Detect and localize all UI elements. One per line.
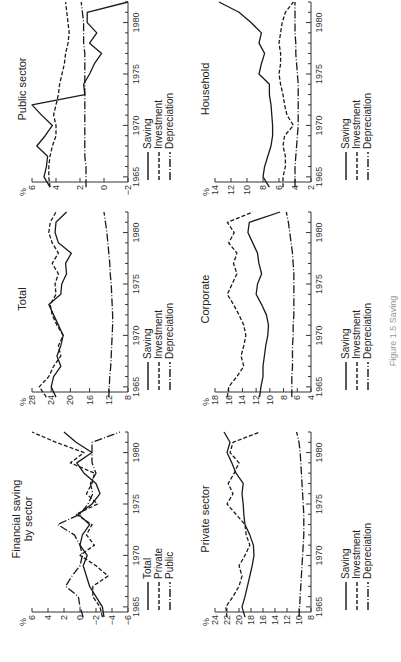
legend-label: Depreciation [362, 93, 373, 149]
dashed-line-icon [354, 152, 360, 180]
legend-label: Investment [153, 100, 164, 149]
svg-text:1965: 1965 [314, 597, 324, 617]
svg-text:14: 14 [237, 395, 247, 405]
svg-text:24: 24 [46, 395, 56, 405]
svg-text:16: 16 [258, 615, 268, 625]
figure-caption: Figure 1.5 Saving [388, 0, 398, 662]
legend-label: Saving [142, 328, 153, 359]
svg-text:12: 12 [282, 615, 292, 625]
legend-financial: Total Private Public [142, 548, 175, 610]
dashdot-line-icon [167, 362, 173, 390]
dashed-line-icon [354, 362, 360, 390]
svg-text:6: 6 [27, 615, 37, 620]
svg-text:12: 12 [226, 185, 236, 195]
svg-text:1965: 1965 [314, 377, 324, 397]
legend-label: Saving [340, 548, 351, 579]
svg-text:0: 0 [99, 185, 109, 190]
svg-text:1980: 1980 [314, 13, 324, 33]
legend-label: Investment [351, 100, 362, 149]
svg-text:1975: 1975 [314, 64, 324, 84]
legend-label: Depreciation [164, 93, 175, 149]
svg-text:8: 8 [258, 185, 268, 190]
dashdot-line-icon [167, 582, 173, 610]
legend-label: Depreciation [362, 523, 373, 579]
legend-corporate: Saving Investment Depreciation [340, 303, 373, 390]
svg-text:16: 16 [224, 395, 234, 405]
dashdot-line-icon [167, 152, 173, 180]
dashed-line-icon [156, 582, 162, 610]
solid-line-icon [145, 152, 151, 180]
svg-text:1980: 1980 [131, 223, 141, 243]
svg-text:1980: 1980 [131, 443, 141, 463]
chart-financial-saving: Financial saving by sector %−6−4−2024619… [10, 424, 195, 644]
svg-text:1980: 1980 [314, 223, 324, 243]
dashed-line-icon [156, 362, 162, 390]
svg-text:10: 10 [242, 185, 252, 195]
legend-label: Public [164, 552, 175, 579]
svg-text:18: 18 [210, 395, 220, 405]
svg-text:10: 10 [265, 395, 275, 405]
dashdot-line-icon [365, 152, 371, 180]
legend-label: Saving [340, 328, 351, 359]
solid-line-icon [343, 152, 349, 180]
svg-text:1975: 1975 [314, 274, 324, 294]
svg-text:0: 0 [75, 615, 85, 620]
svg-text:1970: 1970 [314, 325, 324, 345]
legend-label: Depreciation [164, 303, 175, 359]
svg-text:6: 6 [27, 185, 37, 190]
svg-text:14: 14 [270, 615, 280, 625]
legend-private: Saving Investment Depreciation [340, 523, 373, 610]
solid-line-icon [343, 362, 349, 390]
svg-text:1965: 1965 [314, 167, 324, 187]
legend-label: Investment [351, 310, 362, 359]
svg-text:1975: 1975 [314, 494, 324, 514]
svg-text:1975: 1975 [131, 274, 141, 294]
svg-text:4: 4 [51, 185, 61, 190]
svg-text:4: 4 [43, 615, 53, 620]
solid-line-icon [343, 582, 349, 610]
svg-text:−2: −2 [91, 615, 101, 625]
svg-text:1980: 1980 [314, 443, 324, 463]
dashdot-line-icon [365, 582, 371, 610]
rotated-page: Financial saving by sector %−6−4−2024619… [0, 0, 401, 662]
legend-household: Saving Investment Depreciation [340, 93, 373, 180]
svg-text:28: 28 [27, 395, 37, 405]
svg-text:20: 20 [65, 395, 75, 405]
svg-text:24: 24 [210, 615, 220, 625]
chart-plot: %−6−4−202461965197019751980 [10, 424, 195, 644]
svg-text:1975: 1975 [131, 64, 141, 84]
legend-label: Investment [153, 310, 164, 359]
svg-text:1970: 1970 [131, 325, 141, 345]
svg-text:1970: 1970 [131, 545, 141, 565]
svg-text:18: 18 [246, 615, 256, 625]
svg-text:2: 2 [59, 615, 69, 620]
dashed-line-icon [156, 152, 162, 180]
dashed-line-icon [354, 582, 360, 610]
svg-text:20: 20 [234, 615, 244, 625]
svg-text:1980: 1980 [131, 13, 141, 33]
svg-text:1970: 1970 [314, 115, 324, 135]
svg-text:1970: 1970 [131, 115, 141, 135]
svg-text:6: 6 [292, 395, 302, 400]
solid-line-icon [145, 582, 151, 610]
legend-label: Investment [351, 530, 362, 579]
svg-text:1970: 1970 [314, 545, 324, 565]
legend-total: Saving Investment Depreciation [142, 303, 175, 390]
dashdot-line-icon [365, 362, 371, 390]
svg-text:16: 16 [85, 395, 95, 405]
legend-label: Depreciation [362, 303, 373, 359]
svg-text:8: 8 [279, 395, 289, 400]
solid-line-icon [145, 362, 151, 390]
legend-public: Saving Investment Depreciation [142, 93, 175, 180]
svg-text:2: 2 [75, 185, 85, 190]
svg-text:1965: 1965 [131, 377, 141, 397]
svg-text:1965: 1965 [131, 597, 141, 617]
svg-text:1965: 1965 [131, 167, 141, 187]
svg-text:−4: −4 [107, 615, 117, 625]
svg-text:14: 14 [210, 185, 220, 195]
legend-label: Private [153, 548, 164, 579]
legend-label: Saving [340, 118, 351, 149]
legend-label: Saving [142, 118, 153, 149]
legend-label: Total [142, 558, 153, 579]
svg-text:1975: 1975 [131, 494, 141, 514]
